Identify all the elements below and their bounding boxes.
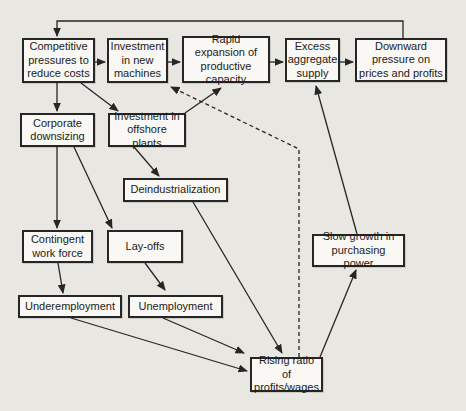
node-label: Competitive pressures to reduce costs [26, 40, 91, 80]
node-label: Rapid expansion of productive capacity [186, 33, 266, 87]
edge-layoffs-to-unemployment [145, 263, 165, 290]
node-label: Corporate downsizing [24, 117, 91, 144]
node-label: Deindustrialization [131, 183, 221, 196]
node-layoffs: Lay-offs [107, 230, 183, 263]
node-label: Downward pressure on prices and profits [359, 40, 443, 80]
node-deindustrialization: Deindustrialization [123, 178, 228, 202]
node-unemployment: Unemployment [128, 295, 223, 318]
node-downward-pressure: Downward pressure on prices and profits [355, 38, 447, 82]
edge-contingent-workforce-to-underemployment [58, 263, 63, 293]
flow-diagram: Competitive pressures to reduce costsInv… [0, 0, 466, 411]
node-label: Lay-offs [126, 240, 165, 253]
node-label: Unemployment [139, 300, 213, 313]
node-label: Investment in offshore plants [112, 110, 182, 150]
node-label: Contingent work force [26, 233, 89, 260]
node-contingent-workforce: Contingent work force [22, 230, 93, 263]
node-label: Underemployment [25, 300, 115, 313]
node-offshore-plants: Investment in offshore plants [108, 113, 186, 147]
node-rising-ratio: Rising ratio of profits/wages [250, 357, 323, 392]
edge-offshore-plants-to-rapid-expansion [185, 88, 221, 113]
node-label: Rising ratio of profits/wages [254, 354, 319, 394]
edge-offshore-plants-to-deindustrialization [134, 147, 159, 176]
edge-competitive-pressures-to-offshore-plants [81, 83, 118, 111]
node-underemployment: Underemployment [18, 295, 122, 318]
node-slow-growth: Slow growth in purchasing power [312, 234, 405, 267]
node-label: Excess aggregate supply [288, 40, 338, 80]
edge-deindustrialization-to-rising-ratio [193, 202, 282, 353]
node-rapid-expansion: Rapid expansion of productive capacity [182, 36, 270, 83]
node-excess-supply: Excess aggregate supply [285, 38, 340, 82]
node-new-machines: Investment in new machines [107, 38, 168, 83]
node-competitive-pressures: Competitive pressures to reduce costs [22, 38, 95, 83]
edge-corporate-downsizing-to-layoffs [74, 147, 112, 228]
edge-slow-growth-to-excess-supply [316, 86, 357, 234]
node-label: Slow growth in purchasing power [316, 230, 401, 270]
edge-rising-ratio-to-slow-growth [320, 270, 356, 357]
node-label: Investment in new machines [111, 40, 165, 80]
node-corporate-downsizing: Corporate downsizing [20, 113, 95, 147]
edge-unemployment-to-rising-ratio [163, 318, 244, 353]
edge-underemployment-to-rising-ratio [71, 318, 247, 371]
